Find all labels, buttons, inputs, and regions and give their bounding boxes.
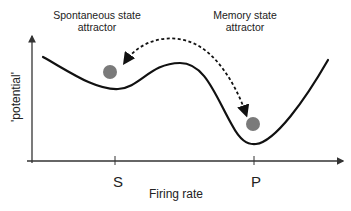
memory-label-line2: attractor <box>226 21 265 33</box>
memory-label-line1: Memory state <box>213 9 277 21</box>
axes <box>27 36 343 165</box>
memory-state-ball <box>246 117 260 131</box>
x-tick-label-p: P <box>251 173 261 190</box>
transition-arrow <box>125 38 246 114</box>
potential-curve <box>43 57 328 144</box>
x-tick-label-s: S <box>113 173 123 190</box>
attractor-landscape-diagram: Spontaneous state attractor Memory state… <box>0 0 351 211</box>
spontaneous-label-line2: attractor <box>78 21 117 33</box>
y-axis-title: 'potential' <box>9 72 23 122</box>
spontaneous-label-line1: Spontaneous state <box>53 9 141 21</box>
spontaneous-state-ball <box>103 65 117 79</box>
x-axis-title: Firing rate <box>149 187 203 201</box>
